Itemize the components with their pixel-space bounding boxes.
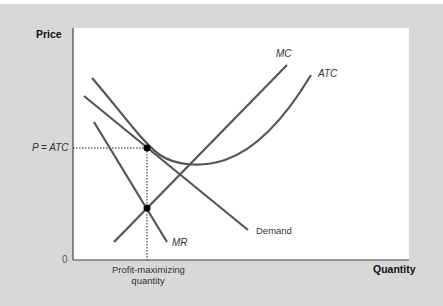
price-level-label: P = ATC [32,142,69,153]
mr-equals-mc-point [144,205,151,212]
mc-label: MC [276,48,292,59]
quantity-label-line1: Profit-maximizing [112,264,184,275]
mr-label: MR [172,237,188,248]
atc-label: ATC [318,68,337,79]
quantity-label-line2: quantity [112,275,184,286]
demand-curve [84,96,248,230]
profit-max-price-point [144,145,151,152]
mc-curve [114,65,287,242]
origin-label: 0 [62,254,68,265]
y-axis-label: Price [36,28,62,40]
x-axis-label: Quantity [373,263,416,275]
quantity-label: Profit-maximizing quantity [112,264,184,286]
demand-label: Demand [256,225,292,236]
